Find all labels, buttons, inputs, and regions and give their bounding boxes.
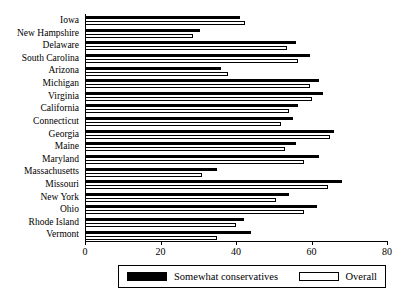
- bar-somewhat-conservatives: [85, 67, 221, 70]
- category-label-maryland: Maryland: [42, 154, 79, 164]
- bars-container: [85, 14, 388, 241]
- bar-group: [85, 14, 388, 27]
- bar-overall: [85, 84, 310, 88]
- bar-overall: [85, 198, 276, 202]
- bar-somewhat-conservatives: [85, 29, 200, 32]
- bar-somewhat-conservatives: [85, 231, 251, 234]
- category-label-maine: Maine: [55, 141, 79, 151]
- bar-overall: [85, 59, 298, 63]
- bar-somewhat-conservatives: [85, 193, 289, 196]
- category-label-arizona: Arizona: [48, 65, 79, 75]
- bar-somewhat-conservatives: [85, 155, 319, 158]
- bar-group: [85, 178, 388, 191]
- category-label-vermont: Vermont: [46, 229, 79, 239]
- category-label-new-hampshire: New Hampshire: [17, 28, 79, 38]
- x-tick-0: [85, 241, 86, 245]
- bar-group: [85, 191, 388, 204]
- x-tick-20: [161, 241, 162, 245]
- category-label-connecticut: Connecticut: [33, 116, 79, 126]
- bar-overall: [85, 34, 193, 38]
- bar-overall: [85, 160, 304, 164]
- category-label-california: California: [40, 103, 79, 113]
- bar-overall: [85, 72, 228, 76]
- category-label-georgia: Georgia: [49, 129, 79, 139]
- bar-group: [85, 216, 388, 229]
- bar-overall: [85, 135, 330, 139]
- category-label-south-carolina: South Carolina: [22, 53, 79, 63]
- bar-group: [85, 153, 388, 166]
- x-tick-60: [312, 241, 313, 245]
- bar-overall: [85, 223, 236, 227]
- legend-swatch-overall: [299, 272, 339, 281]
- bar-overall: [85, 122, 281, 126]
- category-label-missouri: Missouri: [45, 179, 79, 189]
- category-label-rhode-island: Rhode Island: [29, 217, 79, 227]
- bar-somewhat-conservatives: [85, 205, 317, 208]
- bar-group: [85, 115, 388, 128]
- category-label-virginia: Virginia: [48, 91, 79, 101]
- bar-group: [85, 90, 388, 103]
- category-label-massachusetts: Massachusetts: [24, 166, 79, 176]
- category-label-delaware: Delaware: [43, 40, 79, 50]
- bar-somewhat-conservatives: [85, 180, 342, 183]
- bar-somewhat-conservatives: [85, 130, 334, 133]
- category-label-iowa: Iowa: [60, 15, 79, 25]
- category-label-michigan: Michigan: [43, 78, 79, 88]
- bar-overall: [85, 236, 217, 240]
- bar-overall: [85, 173, 202, 177]
- bar-group: [85, 228, 388, 241]
- bar-group: [85, 128, 388, 141]
- bar-overall: [85, 21, 245, 25]
- legend-swatch-somewhat-conservatives: [127, 272, 167, 281]
- x-tick-label-0: 0: [70, 246, 100, 257]
- bar-chart: IowaNew HampshireDelawareSouth CarolinaA…: [0, 0, 410, 294]
- bar-group: [85, 77, 388, 90]
- bar-somewhat-conservatives: [85, 79, 319, 82]
- bar-overall: [85, 109, 289, 113]
- x-tick-80: [387, 241, 388, 245]
- bar-overall: [85, 147, 285, 151]
- bar-somewhat-conservatives: [85, 41, 296, 44]
- bar-overall: [85, 97, 312, 101]
- bar-group: [85, 64, 388, 77]
- bar-somewhat-conservatives: [85, 117, 293, 120]
- bar-overall: [85, 46, 287, 50]
- category-axis-labels: IowaNew HampshireDelawareSouth CarolinaA…: [0, 14, 82, 241]
- bar-overall: [85, 185, 328, 189]
- bar-somewhat-conservatives: [85, 168, 217, 171]
- bar-group: [85, 203, 388, 216]
- x-tick-40: [236, 241, 237, 245]
- bar-group: [85, 39, 388, 52]
- bar-group: [85, 27, 388, 40]
- x-tick-label-60: 60: [297, 246, 327, 257]
- bar-group: [85, 165, 388, 178]
- bar-somewhat-conservatives: [85, 104, 298, 107]
- chart-legend: Somewhat conservatives Overall: [118, 265, 386, 288]
- legend-label-overall: Overall: [346, 271, 378, 282]
- bar-overall: [85, 210, 304, 214]
- category-label-ohio: Ohio: [60, 204, 79, 214]
- x-tick-label-20: 20: [146, 246, 176, 257]
- bar-somewhat-conservatives: [85, 92, 323, 95]
- bar-group: [85, 140, 388, 153]
- bar-somewhat-conservatives: [85, 218, 244, 221]
- bar-somewhat-conservatives: [85, 142, 296, 145]
- bar-somewhat-conservatives: [85, 16, 240, 19]
- bar-group: [85, 102, 388, 115]
- bar-somewhat-conservatives: [85, 54, 310, 57]
- bar-group: [85, 52, 388, 65]
- x-tick-label-80: 80: [372, 246, 402, 257]
- x-tick-label-40: 40: [221, 246, 251, 257]
- legend-label-somewhat-conservatives: Somewhat conservatives: [174, 271, 278, 282]
- category-label-new-york: New York: [40, 192, 79, 202]
